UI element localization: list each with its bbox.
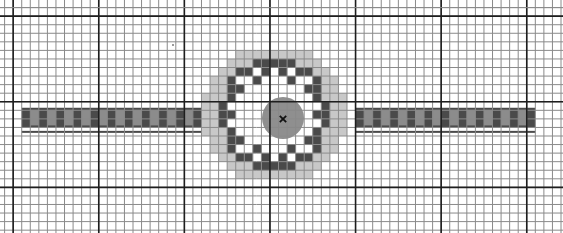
halo-cell (279, 50, 288, 59)
halo-cell (330, 76, 339, 85)
halo-cell (236, 170, 245, 179)
dark-cell (304, 153, 313, 162)
halo-cell (253, 170, 262, 179)
dark-cell (279, 59, 288, 68)
halo-cell (330, 145, 339, 154)
halo-cell (253, 50, 262, 59)
dark-cell (219, 110, 228, 119)
halo-cell (321, 76, 330, 85)
dark-cell (313, 76, 322, 85)
halo-cell (210, 110, 219, 119)
bar-light-cell (133, 110, 142, 126)
halo-cell (201, 127, 210, 136)
dark-cell (270, 162, 279, 171)
halo-cell (227, 162, 236, 171)
dark-cell (227, 145, 236, 154)
halo-cell (210, 145, 219, 154)
halo-cell (210, 119, 219, 128)
grid-canvas (0, 0, 563, 233)
halo-cell (338, 127, 347, 136)
dark-cell (313, 127, 322, 136)
halo-cell (219, 145, 228, 154)
bar-light-cell (167, 110, 176, 126)
halo-cell (210, 85, 219, 94)
dark-cell (313, 136, 322, 145)
dark-cell (287, 162, 296, 171)
bar-light-cell (65, 110, 74, 126)
halo-cell (313, 68, 322, 77)
bar-light-cell (398, 110, 407, 126)
dark-cell (287, 76, 296, 85)
halo-cell (296, 170, 305, 179)
dark-cell (253, 162, 262, 171)
dark-cell (227, 136, 236, 145)
dark-cell (313, 93, 322, 102)
halo-cell (261, 170, 270, 179)
halo-cell (219, 127, 228, 136)
halo-cell (321, 145, 330, 154)
dark-cell (279, 68, 288, 77)
halo-cell (227, 68, 236, 77)
stray-dot-pixel (172, 44, 174, 46)
dark-cell (236, 136, 245, 145)
dark-cell (219, 102, 228, 111)
dark-cell (253, 59, 262, 68)
dark-cell (219, 119, 228, 128)
halo-cell (330, 136, 339, 145)
bar-light-cell (433, 110, 442, 126)
halo-cell (261, 50, 270, 59)
dark-cell (227, 110, 236, 119)
halo-cell (244, 50, 253, 59)
bar-light-cell (116, 110, 125, 126)
dark-cell (244, 68, 253, 77)
dark-cell (236, 153, 245, 162)
halo-cell (338, 102, 347, 111)
dark-cell (313, 85, 322, 94)
halo-cell (210, 93, 219, 102)
halo-cell (219, 93, 228, 102)
halo-cell (304, 50, 313, 59)
halo-cell (304, 59, 313, 68)
halo-cell (236, 59, 245, 68)
dark-cell (304, 136, 313, 145)
dark-cell (279, 153, 288, 162)
halo-cell (210, 136, 219, 145)
halo-cell (321, 136, 330, 145)
dark-cell (227, 93, 236, 102)
halo-cell (201, 93, 210, 102)
halo-cell (296, 162, 305, 171)
halo-cell (330, 85, 339, 94)
dark-cell (227, 127, 236, 136)
halo-cell (279, 170, 288, 179)
halo-cell (219, 68, 228, 77)
halo-cell (330, 102, 339, 111)
dark-cell (287, 59, 296, 68)
dark-cell (296, 68, 305, 77)
bar-light-cell (415, 110, 424, 126)
bar-light-cell (150, 110, 159, 126)
dark-cell (236, 85, 245, 94)
halo-cell (287, 170, 296, 179)
halo-cell (244, 170, 253, 179)
halo-cell (321, 85, 330, 94)
dark-cell (313, 145, 322, 154)
halo-cell (296, 59, 305, 68)
halo-cell (244, 162, 253, 171)
dark-cell (236, 68, 245, 77)
dark-cell (261, 59, 270, 68)
halo-cell (219, 153, 228, 162)
halo-cell (227, 59, 236, 68)
dark-cell (304, 68, 313, 77)
bar-light-cell (450, 110, 459, 126)
halo-cell (219, 136, 228, 145)
halo-cell (201, 102, 210, 111)
halo-cell (330, 119, 339, 128)
bar-light-cell (501, 110, 510, 126)
halo-cell (219, 85, 228, 94)
halo-cell (219, 76, 228, 85)
halo-cell (321, 68, 330, 77)
dark-cell (261, 153, 270, 162)
right-rail (356, 131, 536, 133)
halo-cell (201, 119, 210, 128)
halo-cell (210, 127, 219, 136)
